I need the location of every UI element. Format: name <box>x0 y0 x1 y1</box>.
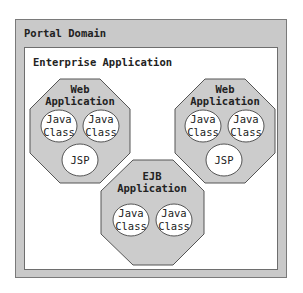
module-title-line2: Application <box>190 95 260 107</box>
svg-text:Java: Java <box>46 113 71 125</box>
module-title-line2: Application <box>45 95 115 107</box>
svg-text:Class: Class <box>187 126 219 138</box>
jsp-circle: JSP <box>62 144 98 176</box>
module-title-line1: Web <box>216 83 235 95</box>
svg-text:Class: Class <box>158 220 190 232</box>
svg-text:Java: Java <box>88 113 113 125</box>
svg-text:Java: Java <box>233 113 258 125</box>
svg-text:Class: Class <box>230 126 262 138</box>
module-title-line1: EJB <box>143 170 162 182</box>
svg-text:Java: Java <box>118 207 143 219</box>
web-application-left: Web Application Java Class Java Class JS… <box>30 79 130 183</box>
module-title-line2: Application <box>117 182 187 194</box>
java-class-circle: Java Class <box>185 110 221 142</box>
java-class-circle: Java Class <box>41 110 77 142</box>
svg-text:Class: Class <box>85 126 117 138</box>
java-class-circle: Java Class <box>113 204 149 236</box>
svg-text:Java: Java <box>190 113 215 125</box>
jsp-circle: JSP <box>206 144 242 176</box>
svg-text:Class: Class <box>43 126 75 138</box>
web-application-right: Web Application Java Class Java Class JS… <box>175 79 275 183</box>
java-class-circle: Java Class <box>83 110 119 142</box>
svg-text:Class: Class <box>115 220 147 232</box>
ejb-application: EJB Application Java Class Java Class <box>101 160 204 265</box>
java-class-circle: Java Class <box>156 204 192 236</box>
java-class-circle: Java Class <box>228 110 264 142</box>
module-title-line1: Web <box>71 83 90 95</box>
svg-text:JSP: JSP <box>215 154 234 166</box>
svg-text:JSP: JSP <box>71 154 90 166</box>
module-diagram: Web Application Java Class Java Class JS… <box>0 0 303 293</box>
svg-text:Java: Java <box>161 207 186 219</box>
